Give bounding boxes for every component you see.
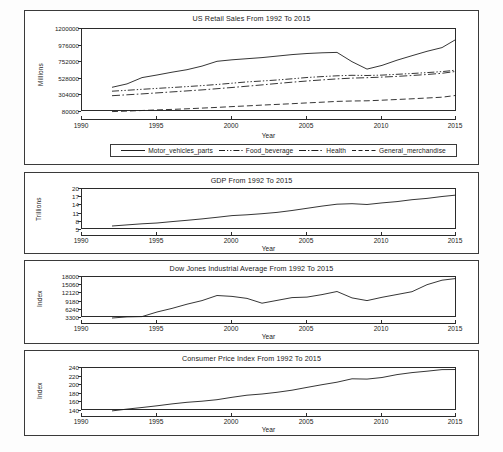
x-axis-line (81, 416, 456, 417)
xtick-label: 2005 (299, 418, 314, 425)
xtick-label: 2005 (299, 122, 314, 129)
ytick-mark (78, 204, 81, 205)
xtick-mark (381, 232, 382, 235)
ytick-mark (78, 213, 81, 214)
series-lines-cpi (82, 368, 457, 411)
ytick-label: 140 (43, 407, 79, 414)
series-lines-us-retail-sales (82, 29, 457, 112)
series-lines-dow-jones (82, 277, 457, 318)
legend-entry-food-beverage[interactable]: Food_beverage (216, 147, 297, 154)
ytick-label: 18000 (39, 273, 79, 280)
chart-page: US Retail Sales From 1992 To 2015 Millio… (0, 0, 503, 452)
plot-area-gdp (81, 188, 456, 229)
xtick-mark (156, 232, 157, 235)
xtick-label: 2015 (448, 237, 463, 244)
xtick-label: 2010 (374, 237, 389, 244)
xtick-label: 2005 (299, 237, 314, 244)
xtick-label: 1995 (149, 325, 164, 332)
xtick-label: 1990 (74, 325, 89, 332)
ytick-label: 80000 (39, 108, 79, 115)
ytick-label: 180 (43, 389, 79, 396)
ytick-label: 160 (43, 398, 79, 405)
xtick-label: 1990 (74, 237, 89, 244)
plot-area-dow-jones (81, 276, 456, 317)
ytick-mark (78, 301, 81, 302)
xtick-mark (455, 116, 456, 119)
chart-title-dow-jones: Dow Jones Industrial Average From 1992 T… (25, 264, 478, 273)
y-axis-label-gdp: Trillions (35, 197, 42, 221)
ytick-label: 5 (43, 226, 79, 233)
xtick-mark (231, 116, 232, 119)
xtick-label: 2010 (374, 122, 389, 129)
ytick-mark (78, 61, 81, 62)
ytick-label: 200 (43, 381, 79, 388)
legend-key-dash-dot-dot-icon (219, 147, 243, 154)
xtick-label: 2015 (448, 325, 463, 332)
plot-area-cpi (81, 367, 456, 410)
xtick-label: 2010 (374, 418, 389, 425)
ytick-mark (78, 410, 81, 411)
ytick-label: 15060 (39, 281, 79, 288)
ytick-label: 528000 (39, 74, 79, 81)
ytick-mark (78, 28, 81, 29)
y-axis-label-cpi: Index (36, 382, 43, 399)
ytick-mark (78, 284, 81, 285)
chart-title-cpi: Consumer Price Index From 1992 To 2015 (25, 354, 478, 363)
series-line-gdp (112, 195, 456, 226)
series-line-health (112, 71, 456, 95)
x-axis-line (81, 323, 456, 324)
xtick-mark (455, 320, 456, 323)
ytick-label: 3300 (39, 314, 79, 321)
xtick-label: 1995 (149, 122, 164, 129)
xtick-mark (81, 232, 82, 235)
x-axis-label-us-retail-sales: Year (81, 132, 456, 139)
legend-entry-motor-vehicles-parts[interactable]: Motor_vehicles_parts (118, 147, 216, 154)
xtick-mark (231, 320, 232, 323)
chart-title-us-retail-sales: US Retail Sales From 1992 To 2015 (25, 14, 478, 23)
ytick-label: 6240 (39, 305, 79, 312)
ytick-label: 17 (43, 193, 79, 200)
xtick-mark (381, 116, 382, 119)
xtick-label: 2005 (299, 325, 314, 332)
xtick-mark (381, 320, 382, 323)
xtick-mark (231, 232, 232, 235)
chart-title-gdp: GDP From 1992 To 2015 (25, 176, 478, 185)
ytick-mark (78, 309, 81, 310)
xtick-mark (306, 320, 307, 323)
ytick-mark (78, 376, 81, 377)
xtick-label: 2000 (224, 122, 239, 129)
plot-area-us-retail-sales (81, 28, 456, 111)
ytick-mark (78, 276, 81, 277)
ytick-label: 12120 (39, 289, 79, 296)
xtick-mark (81, 116, 82, 119)
x-axis-line (81, 235, 456, 236)
series-line-cpi (112, 370, 456, 411)
x-axis-line (81, 119, 456, 120)
series-lines-gdp (82, 189, 457, 230)
xtick-mark (81, 320, 82, 323)
ytick-mark (78, 292, 81, 293)
xtick-label: 1990 (74, 418, 89, 425)
legend-entry-health[interactable]: Health (296, 147, 349, 154)
xtick-label: 2015 (448, 418, 463, 425)
xtick-label: 2000 (224, 325, 239, 332)
ytick-mark (78, 188, 81, 189)
xtick-mark (156, 116, 157, 119)
legend-label: Food_beverage (246, 147, 294, 154)
ytick-label: 14 (43, 201, 79, 208)
ytick-mark (78, 45, 81, 46)
ytick-mark (78, 78, 81, 79)
xtick-label: 2015 (448, 122, 463, 129)
xtick-mark (455, 232, 456, 235)
ytick-mark (78, 196, 81, 197)
ytick-label: 220 (43, 372, 79, 379)
ytick-label: 976000 (39, 41, 79, 48)
legend-us-retail-sales: Motor_vehicles_parts Food_beverage Healt… (110, 144, 457, 157)
ytick-mark (78, 221, 81, 222)
legend-key-dash-icon (352, 147, 376, 154)
xtick-label: 1995 (149, 418, 164, 425)
ytick-label: 304000 (39, 91, 79, 98)
xtick-label: 2000 (224, 237, 239, 244)
x-axis-label-gdp: Year (81, 245, 456, 252)
legend-entry-general-merchandise[interactable]: General_merchandise (349, 147, 449, 154)
